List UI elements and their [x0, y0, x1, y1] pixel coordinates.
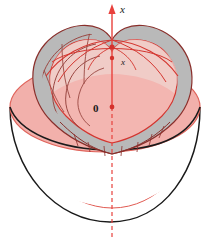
point-apex — [109, 44, 114, 49]
point-label-x: x — [120, 57, 125, 67]
figure-canvas: x x 0 — [0, 0, 209, 240]
point-origin — [110, 105, 115, 110]
up-arrow-icon — [108, 4, 115, 14]
origin-label-0: 0 — [93, 102, 99, 114]
axis-label-x: x — [119, 3, 125, 15]
point-inner — [110, 56, 114, 60]
diagram-svg: x x 0 — [0, 0, 209, 240]
